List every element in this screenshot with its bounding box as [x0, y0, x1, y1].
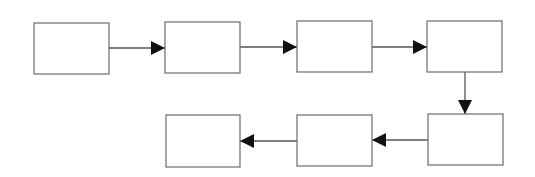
- nodes-layer: [34, 21, 503, 167]
- box-shape: [297, 115, 372, 166]
- process-box-1: [34, 23, 109, 74]
- process-box-6: [297, 115, 372, 166]
- box-shape: [297, 21, 372, 72]
- arrow-n3-to-n4: [372, 40, 427, 54]
- arrow-n2-to-n3: [240, 40, 297, 54]
- box-shape: [34, 23, 109, 74]
- process-box-4: [427, 21, 502, 72]
- arrow-n5-to-n6: [372, 133, 428, 147]
- arrowhead-icon: [151, 41, 165, 55]
- arrow-n1-to-n2: [109, 41, 165, 55]
- flow-diagram: [0, 0, 535, 177]
- arrow-n4-to-n5: [458, 72, 472, 114]
- box-shape: [427, 21, 502, 72]
- process-box-7: [166, 115, 240, 167]
- box-shape: [166, 115, 240, 167]
- box-shape: [165, 22, 240, 73]
- arrowhead-icon: [283, 40, 297, 54]
- process-box-2: [165, 22, 240, 73]
- process-box-3: [297, 21, 372, 72]
- arrowhead-icon: [458, 100, 472, 114]
- process-box-5: [428, 114, 503, 165]
- arrowhead-icon: [372, 133, 386, 147]
- arrowhead-icon: [240, 134, 254, 148]
- box-shape: [428, 114, 503, 165]
- arrowhead-icon: [413, 40, 427, 54]
- arrow-n6-to-n7: [240, 134, 297, 148]
- edges-layer: [109, 40, 472, 148]
